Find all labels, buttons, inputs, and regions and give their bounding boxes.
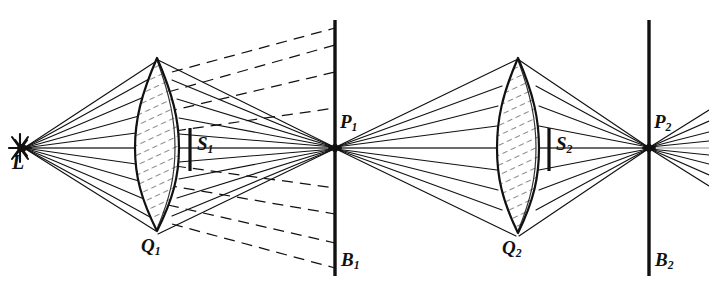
canvas-background <box>0 0 709 288</box>
label-L-text: L <box>12 151 24 173</box>
label-Q2-sub: 2 <box>516 247 522 260</box>
label-P2-text: P <box>654 111 666 132</box>
label-P2-sub: 2 <box>666 121 672 134</box>
label-B1-text: B <box>341 249 354 270</box>
label-Q1: Q1 <box>141 236 161 258</box>
label-B1-sub: 1 <box>354 259 360 272</box>
label-S1-text: S <box>197 133 208 154</box>
label-S1-sub: 1 <box>208 143 214 156</box>
optical-ray-diagram: L Q1 S1 P1 B1 Q2 S2 P2 B2 <box>0 0 709 288</box>
label-Q2-text: Q <box>502 237 516 258</box>
label-B1: B1 <box>341 250 360 272</box>
label-S2-sub: 2 <box>567 143 573 156</box>
label-Q1-text: Q <box>141 235 155 256</box>
diagram-canvas <box>0 0 709 288</box>
label-P2: P2 <box>654 112 672 134</box>
label-B2-text: B <box>655 249 668 270</box>
label-Q2: Q2 <box>502 238 522 260</box>
label-S2-text: S <box>556 133 567 154</box>
label-S2: S2 <box>556 134 572 156</box>
label-P1: P1 <box>340 112 358 134</box>
label-B2-sub: 2 <box>668 259 674 272</box>
label-Q1-sub: 1 <box>155 245 161 258</box>
label-L: L <box>12 152 24 172</box>
label-P1-text: P <box>340 111 352 132</box>
label-S1: S1 <box>197 134 213 156</box>
label-B2: B2 <box>655 250 674 272</box>
label-P1-sub: 1 <box>352 121 358 134</box>
